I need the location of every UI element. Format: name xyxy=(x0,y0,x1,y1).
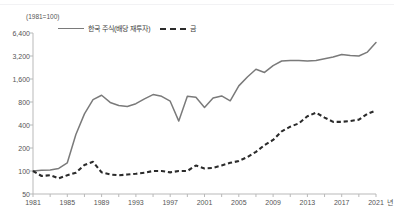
series-line-korean-stocks xyxy=(33,43,376,171)
series-line-gold xyxy=(33,110,376,178)
x-axis-tick-label: 1981 xyxy=(25,199,41,206)
x-axis-tick-label: 1989 xyxy=(94,199,110,206)
y-axis-tick-label: 100 xyxy=(4,168,30,175)
chart-series xyxy=(33,43,376,179)
y-axis-tick-label: 3,200 xyxy=(4,53,30,60)
chart-axes xyxy=(30,33,376,197)
chart-plot-area xyxy=(0,0,394,219)
x-axis-tick-label: 2009 xyxy=(265,199,281,206)
x-axis-tick-label: 1993 xyxy=(128,199,144,206)
x-axis-labels: 1981198519891993199720012005200920132017… xyxy=(0,197,394,211)
y-axis-tick-label: 800 xyxy=(4,99,30,106)
y-axis-labels: 501002004008001,6003,2006,400 xyxy=(0,0,30,219)
y-axis-tick-label: 200 xyxy=(4,145,30,152)
x-axis-tick-label: 2021 xyxy=(368,199,384,206)
x-axis-unit-label: 년 xyxy=(387,199,393,206)
x-axis-tick-label: 1985 xyxy=(60,199,76,206)
x-axis-tick-label: 2013 xyxy=(300,199,316,206)
x-axis-tick-label: 2005 xyxy=(231,199,247,206)
x-axis-tick-label: 2017 xyxy=(334,199,350,206)
y-axis-tick-label: 6,400 xyxy=(4,30,30,37)
y-axis-tick-label: 400 xyxy=(4,122,30,129)
x-axis-tick-label: 2001 xyxy=(197,199,213,206)
y-axis-tick-label: 1,600 xyxy=(4,76,30,83)
x-axis-tick-label: 1997 xyxy=(162,199,178,206)
chart-container: (1981=100) 한국 주식(배당 재투자) 금 5010020040080… xyxy=(0,0,394,219)
